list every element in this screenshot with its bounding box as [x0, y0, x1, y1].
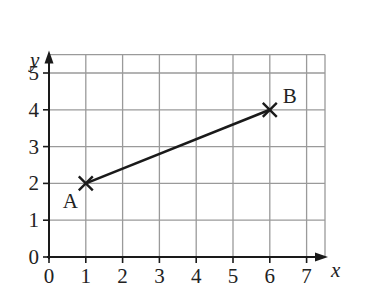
y-axis-arrow-icon — [45, 51, 54, 64]
x-axis-label: x — [330, 258, 341, 282]
y-tick-label: 1 — [29, 208, 40, 232]
y-tick-label: 3 — [29, 135, 40, 159]
point-markers: AB — [63, 84, 297, 214]
axes — [45, 51, 329, 262]
x-tick-label: 1 — [81, 264, 92, 288]
x-tick-label: 4 — [191, 264, 202, 288]
point-label-b: B — [283, 84, 297, 108]
y-tick-label: 0 — [29, 245, 40, 269]
coordinate-grid-chart: 01234567012345 AB x y — [0, 0, 366, 308]
point-label-a: A — [63, 189, 79, 213]
x-tick-label: 6 — [265, 264, 276, 288]
x-tick-label: 0 — [44, 264, 55, 288]
x-axis-arrow-icon — [315, 253, 328, 262]
x-tick-label: 3 — [154, 264, 165, 288]
y-tick-label: 2 — [29, 171, 40, 195]
x-tick-label: 5 — [228, 264, 239, 288]
y-axis-label: y — [28, 48, 40, 72]
x-tick-label: 2 — [117, 264, 128, 288]
x-tick-label: 7 — [301, 264, 312, 288]
y-tick-label: 4 — [29, 98, 40, 122]
